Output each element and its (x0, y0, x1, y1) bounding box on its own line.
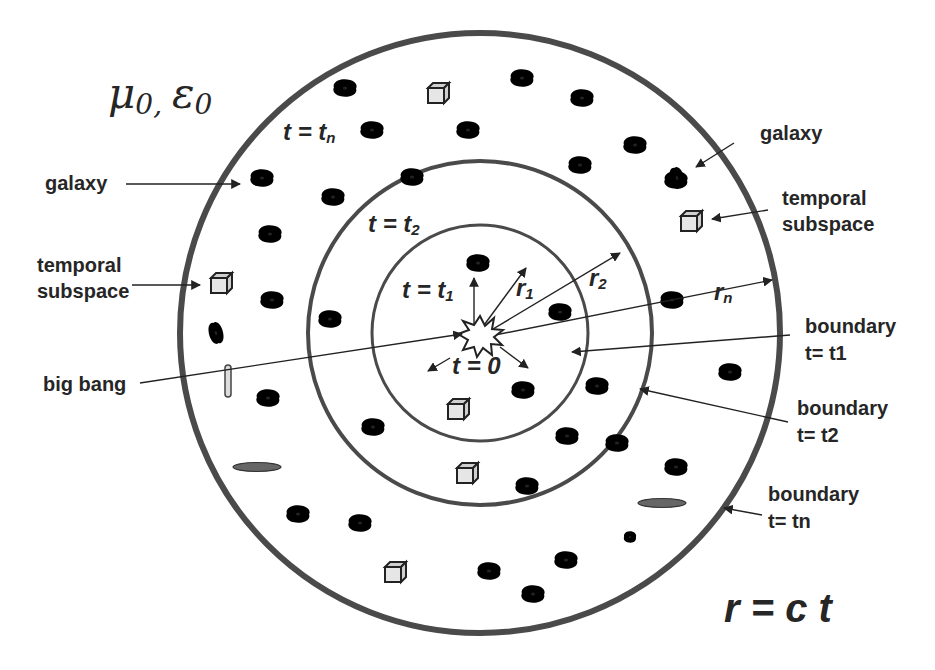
ring-label-tn: t = tn (283, 118, 336, 146)
annotation-temporal-subspace-left: temporalsubspace (37, 254, 129, 302)
radius-label-r1: r1 (516, 274, 534, 302)
big-bang-pointer (140, 334, 462, 383)
galaxy-icon (206, 321, 225, 346)
galaxy-icon (456, 121, 479, 139)
temporal-subspace-cube-icon (428, 83, 449, 103)
annotation-boundary-t1: boundaryt= t1 (805, 315, 897, 364)
radius-label-rn: rn (714, 278, 733, 306)
medium-permeability-permittivity-label: μ0,ε0 (108, 69, 212, 121)
temporal-subspace-cube-icon (385, 562, 406, 582)
galaxy-icon (256, 389, 279, 407)
temporal-subspace-cube-icon (448, 399, 469, 419)
galaxy-icon (555, 427, 578, 445)
galaxy-icon (250, 169, 273, 187)
boundary-t2-pointer (640, 389, 788, 422)
small-galaxy-icon (624, 531, 636, 542)
annotation-big-bang: big bang (43, 373, 126, 395)
galaxy-icon (570, 89, 593, 107)
temporal-subspace-cubes (211, 83, 702, 582)
galaxy-icon (515, 477, 538, 495)
galaxy-icon (585, 377, 608, 395)
galaxy-icon (718, 363, 741, 381)
galaxy-icon (360, 121, 383, 139)
big-bang-burst-icon (458, 316, 503, 357)
annotation-boundary-tn: boundaryt= tn (768, 483, 860, 532)
galaxy-icon (260, 291, 283, 309)
galaxy-icon (318, 310, 341, 328)
galaxy-icon (548, 303, 571, 321)
galaxy-icon (466, 254, 489, 272)
ring-label-t2: t = t2 (368, 210, 420, 238)
annotation-boundary-t2: boundaryt= t2 (797, 397, 889, 446)
galaxy-icon (511, 381, 534, 399)
disk-galaxy-icon (638, 499, 686, 508)
galaxy-icon (605, 434, 628, 452)
galaxy-icon (286, 505, 309, 523)
galaxy-icon (258, 225, 281, 243)
down-right-arrow (500, 347, 528, 368)
galaxy-icon (333, 79, 356, 97)
galaxy-icon (623, 136, 646, 154)
galaxy-icon (521, 585, 544, 603)
galaxy-icon (554, 551, 577, 569)
temporal-subspace-cube-icon (457, 463, 478, 483)
galaxy-icon (361, 418, 384, 436)
temporal-subspace-cube-icon (681, 211, 702, 231)
annotation-temporal-subspace-right: temporalsubspace (782, 187, 874, 235)
annotation-galaxy-left: galaxy (45, 172, 108, 194)
boundary-t1-pointer (572, 335, 790, 352)
galaxy-icon (400, 168, 423, 186)
disk-galaxy-icon (233, 463, 281, 472)
radius-label-r2: r2 (589, 264, 607, 292)
temporal-subspace-cube-icon (211, 273, 232, 293)
boundary-tn-pointer (724, 508, 762, 515)
annotation-galaxy-right: galaxy (760, 122, 823, 144)
galaxy-icon (664, 458, 687, 476)
galaxy-icon (568, 156, 591, 174)
ring-label-t1: t = t1 (402, 276, 454, 304)
radius-r2-arrow (478, 253, 620, 338)
down-left-arrow (428, 358, 450, 371)
galaxy-icon (348, 514, 371, 532)
galaxy-icon (510, 69, 533, 87)
galaxy-icon (321, 188, 344, 206)
expanding-universe-diagram: μ0,ε0 t = tn t = t2 t = t1 t = 0 r1 r2 r… (0, 0, 935, 670)
galaxy-icon (477, 562, 500, 580)
equation-r-equals-ct: r = c t (724, 586, 834, 630)
